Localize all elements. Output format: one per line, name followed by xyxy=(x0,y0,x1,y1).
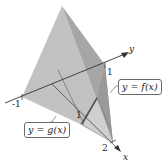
x-tick-2: 2 xyxy=(102,143,108,153)
x-tick-1: 1 xyxy=(76,110,82,120)
solid-diagram: y x -1 1 1 2 y = f(x) y = g(x) xyxy=(0,0,166,165)
x-axis-label: x xyxy=(123,152,128,162)
callout-leader-f xyxy=(110,86,118,93)
y-tick-neg1: -1 xyxy=(12,99,21,109)
label-f-of-x: y = f(x) xyxy=(118,79,162,95)
label-g-of-x: y = g(x) xyxy=(24,122,70,138)
y-axis-label: y xyxy=(129,44,134,54)
y-tick-1: 1 xyxy=(107,67,113,77)
